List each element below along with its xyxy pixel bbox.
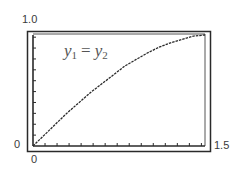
axes: [33, 34, 205, 146]
axis-ticks: [33, 37, 201, 146]
curve-sub-2: 2: [102, 49, 108, 61]
outer-frame: [28, 32, 211, 152]
plot-area: [0, 0, 240, 169]
curve-equals: =: [77, 41, 95, 60]
curve-var-1: y: [64, 41, 72, 60]
curve-label: y1=y2: [64, 41, 108, 61]
curve-y1-equals-y2: [33, 35, 205, 146]
